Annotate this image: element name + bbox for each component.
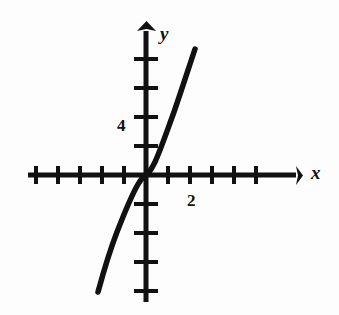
x-tick-label-2: 2 [187, 192, 196, 209]
y-tick-label-4: 4 [117, 117, 126, 134]
x-axis-label: x [311, 163, 321, 182]
graph-figure: y x 4 2 [0, 0, 339, 315]
cartesian-plot [0, 0, 339, 315]
y-axis-label: y [160, 24, 168, 43]
arrow-right-icon [296, 166, 303, 185]
arrow-up-icon [137, 21, 156, 31]
